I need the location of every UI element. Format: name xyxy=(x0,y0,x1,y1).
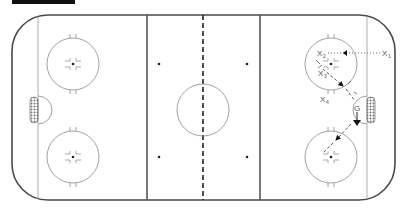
hockey-rink-diagram: X 1 X 2 X 3 X 4 G xyxy=(0,0,405,216)
svg-text:3: 3 xyxy=(324,73,327,79)
svg-text:4: 4 xyxy=(326,99,329,105)
svg-text:1: 1 xyxy=(388,53,391,59)
right-goal xyxy=(367,97,375,123)
neutral-dot xyxy=(246,156,249,159)
goalie-g: G xyxy=(354,104,360,113)
neutral-dot xyxy=(158,156,161,159)
svg-text:G: G xyxy=(354,104,360,113)
left-goal xyxy=(30,97,38,123)
neutral-dot xyxy=(158,63,161,66)
svg-text:2: 2 xyxy=(323,53,326,59)
neutral-dot xyxy=(246,63,249,66)
